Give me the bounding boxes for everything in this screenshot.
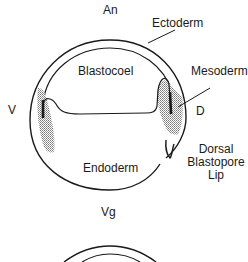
- label-mesoderm: Mesoderm: [191, 65, 248, 78]
- embryo-diagram: [0, 0, 248, 262]
- second-embryo-inner: [82, 254, 140, 262]
- label-ectoderm: Ectoderm: [152, 17, 203, 30]
- dorsal-lip-involution: [170, 92, 171, 114]
- blastocoel-floor: [43, 78, 171, 118]
- label-dorsal: D: [196, 105, 205, 118]
- ventral-mesoderm: [37, 88, 54, 153]
- label-vegetal-pole: Vg: [101, 206, 116, 219]
- label-endoderm: Endoderm: [83, 162, 138, 175]
- label-animal-pole: An: [103, 4, 118, 17]
- label-dorsal-blastopore-lip: Dorsal Blastopore Lip: [186, 143, 246, 182]
- ectoderm-leader: [148, 30, 175, 43]
- label-dbl-line3: Lip: [186, 169, 246, 182]
- label-blastocoel: Blastocoel: [78, 65, 133, 78]
- label-ventral: V: [8, 104, 16, 117]
- mesoderm-leader: [178, 88, 210, 107]
